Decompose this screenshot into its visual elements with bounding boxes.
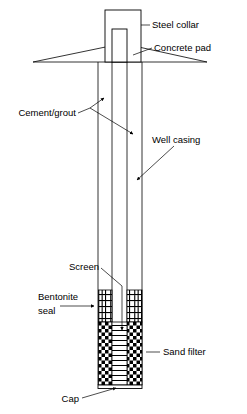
screen-interval [112,322,127,385]
casing-stickup-shape [112,29,127,62]
cap-shape [98,385,142,389]
sand-filter-left [99,322,113,385]
bentonite-seal-right [127,290,142,322]
leader-cap [82,388,116,398]
label-screen: Screen [69,261,99,272]
label-cap: Cap [62,393,79,404]
sand-filter-right [127,322,142,385]
label-steel-collar: Steel collar [152,19,199,30]
leader-well-casing [137,146,174,180]
well-diagram: Steel collar Concrete pad Cement/grout W… [0,0,247,414]
label-bentonite-seal-line1: Bentonite [38,291,78,302]
leader-cement-branch [78,108,90,113]
label-bentonite-seal-line2: seal [38,305,55,316]
label-sand-filter: Sand filter [163,346,206,357]
label-cement-grout: Cement/grout [18,107,76,118]
well-cross-section-svg: Steel collar Concrete pad Cement/grout W… [0,0,247,414]
leader-cement-arrow-right [90,108,133,134]
label-well-casing: Well casing [152,134,200,145]
label-concrete-pad: Concrete pad [154,42,211,53]
bentonite-seal-left [99,290,113,322]
leader-screen-diagonal [101,268,122,286]
leader-cement-arrow-left [90,98,104,108]
